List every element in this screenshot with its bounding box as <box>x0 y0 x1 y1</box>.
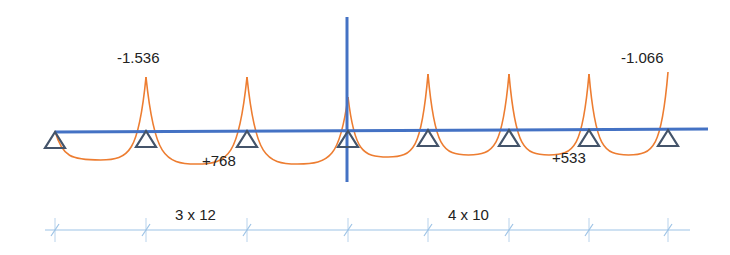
support-triangle-icon <box>499 130 519 146</box>
right-span-dimension-label: 4 x 10 <box>448 207 489 222</box>
right-positive-moment-label: +533 <box>552 150 586 165</box>
right-negative-moment-label: -1.066 <box>621 50 664 65</box>
left-span-dimension-label: 3 x 12 <box>175 207 216 222</box>
support-triangle-icon <box>658 130 678 146</box>
beam-diagram <box>0 0 730 255</box>
support-triangle-icon <box>237 131 257 147</box>
dimension-line <box>45 218 690 242</box>
beam <box>55 129 708 132</box>
left-positive-moment-label: +768 <box>202 153 236 168</box>
support-triangle-icon <box>418 130 438 146</box>
support-triangle-icon <box>136 131 156 147</box>
support-triangle-icon <box>579 130 599 146</box>
support-triangle-icon <box>45 132 65 148</box>
left-negative-moment-label: -1.536 <box>117 50 160 65</box>
